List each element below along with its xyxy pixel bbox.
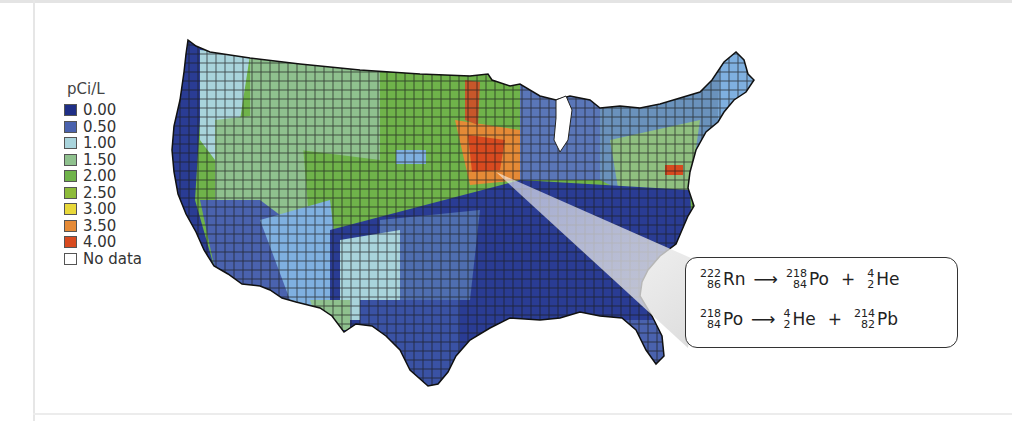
legend-item: 3.50 [64,218,142,235]
legend-swatch [64,137,77,149]
legend-item: 2.50 [64,185,142,202]
legend-swatch [64,104,77,116]
legend-item: 1.00 [64,135,142,152]
legend-item: 4.00 [64,234,142,251]
legend-item: 3.00 [64,201,142,218]
plus-sign: + [841,269,855,289]
legend-item: 2.00 [64,168,142,185]
plus-sign: + [828,309,842,329]
legend-swatch [64,121,77,133]
legend-item: 0.50 [64,119,142,136]
reaction-arrow: ⟶ [754,269,778,289]
decay-equations-box: 22286Rn ⟶ 21884Po + 42He 21884Po ⟶ 42He … [685,257,958,348]
nuclide-po218: 21884Po [700,308,743,330]
legend-title: pCi/L [67,80,142,98]
nuclide-he4: 42He [783,308,815,330]
legend-item: 0.00 [64,102,142,119]
equation-radon-decay: 22286Rn ⟶ 21884Po + 42He [700,268,900,290]
legend-item: No data [64,251,142,268]
legend-swatch [64,187,77,199]
legend-swatch [64,170,77,182]
equation-polonium-decay: 21884Po ⟶ 42He + 21482Pb [700,308,898,330]
nuclide-he4: 42He [867,268,899,290]
legend-swatch [64,253,77,265]
us-radon-map [0,0,1012,421]
nuclide-po218: 21884Po [786,268,829,290]
legend-swatch [64,203,77,215]
reaction-arrow: ⟶ [751,309,775,329]
nuclide-rn222: 22286Rn [700,268,746,290]
nuclide-pb214: 21482Pb [854,308,898,330]
legend: pCi/L 0.00 0.50 1.00 1.50 2.00 2.50 3.00… [64,80,142,267]
legend-item: 1.50 [64,152,142,169]
legend-swatch [64,154,77,166]
legend-swatch [64,236,77,248]
legend-swatch [64,220,77,232]
